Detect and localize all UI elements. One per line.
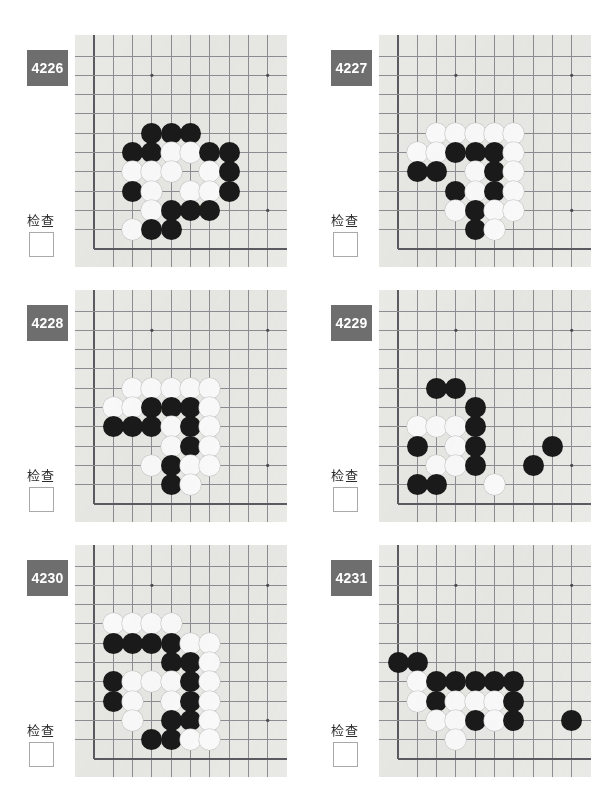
black-stone[interactable]: [407, 436, 428, 457]
white-stone[interactable]: [141, 378, 162, 399]
white-stone[interactable]: [122, 378, 143, 399]
black-stone[interactable]: [180, 200, 201, 221]
white-stone[interactable]: [180, 378, 201, 399]
black-stone[interactable]: [219, 181, 240, 202]
black-stone[interactable]: [542, 436, 563, 457]
black-stone[interactable]: [161, 710, 182, 731]
go-board[interactable]: [75, 290, 287, 522]
black-stone[interactable]: [465, 436, 486, 457]
black-stone[interactable]: [561, 710, 582, 731]
white-stone[interactable]: [103, 397, 124, 418]
black-stone[interactable]: [103, 416, 124, 437]
white-stone[interactable]: [426, 123, 447, 144]
black-stone[interactable]: [122, 142, 143, 163]
black-stone[interactable]: [219, 161, 240, 182]
black-stone[interactable]: [180, 123, 201, 144]
white-stone[interactable]: [199, 378, 220, 399]
black-stone[interactable]: [465, 671, 486, 692]
white-stone[interactable]: [161, 416, 182, 437]
white-stone[interactable]: [445, 123, 466, 144]
black-stone[interactable]: [503, 691, 524, 712]
white-stone[interactable]: [122, 691, 143, 712]
go-board[interactable]: [75, 35, 287, 267]
go-board[interactable]: [75, 545, 287, 777]
black-stone[interactable]: [465, 710, 486, 731]
white-stone[interactable]: [122, 397, 143, 418]
white-stone[interactable]: [484, 200, 505, 221]
black-stone[interactable]: [103, 691, 124, 712]
white-stone[interactable]: [122, 710, 143, 731]
white-stone[interactable]: [407, 691, 428, 712]
black-stone[interactable]: [484, 181, 505, 202]
black-stone[interactable]: [445, 181, 466, 202]
white-stone[interactable]: [161, 142, 182, 163]
black-stone[interactable]: [407, 161, 428, 182]
black-stone[interactable]: [523, 455, 544, 476]
black-stone[interactable]: [465, 397, 486, 418]
check-checkbox[interactable]: [29, 742, 54, 767]
black-stone[interactable]: [161, 455, 182, 476]
white-stone[interactable]: [465, 181, 486, 202]
check-checkbox[interactable]: [333, 487, 358, 512]
white-stone[interactable]: [484, 691, 505, 712]
go-board[interactable]: [379, 35, 591, 267]
white-stone[interactable]: [161, 671, 182, 692]
white-stone[interactable]: [465, 123, 486, 144]
black-stone[interactable]: [161, 633, 182, 654]
white-stone[interactable]: [445, 691, 466, 712]
white-stone[interactable]: [161, 378, 182, 399]
black-stone[interactable]: [122, 633, 143, 654]
go-board[interactable]: [379, 545, 591, 777]
check-checkbox[interactable]: [29, 487, 54, 512]
white-stone[interactable]: [407, 416, 428, 437]
black-stone[interactable]: [103, 633, 124, 654]
white-stone[interactable]: [503, 123, 524, 144]
white-stone[interactable]: [503, 181, 524, 202]
black-stone[interactable]: [161, 123, 182, 144]
black-stone[interactable]: [407, 474, 428, 495]
black-stone[interactable]: [161, 219, 182, 240]
black-stone[interactable]: [180, 652, 201, 673]
white-stone[interactable]: [465, 161, 486, 182]
black-stone[interactable]: [388, 652, 409, 673]
black-stone[interactable]: [426, 691, 447, 712]
black-stone[interactable]: [465, 200, 486, 221]
check-checkbox[interactable]: [333, 232, 358, 257]
white-stone[interactable]: [426, 455, 447, 476]
black-stone[interactable]: [407, 652, 428, 673]
black-stone[interactable]: [465, 142, 486, 163]
white-stone[interactable]: [484, 123, 505, 144]
black-stone[interactable]: [141, 633, 162, 654]
go-board[interactable]: [379, 290, 591, 522]
black-stone[interactable]: [161, 652, 182, 673]
black-stone[interactable]: [465, 219, 486, 240]
white-stone[interactable]: [180, 633, 201, 654]
black-stone[interactable]: [103, 671, 124, 692]
white-stone[interactable]: [199, 633, 220, 654]
check-checkbox[interactable]: [29, 232, 54, 257]
white-stone[interactable]: [141, 181, 162, 202]
white-stone[interactable]: [199, 436, 220, 457]
black-stone[interactable]: [180, 691, 201, 712]
white-stone[interactable]: [199, 181, 220, 202]
white-stone[interactable]: [161, 436, 182, 457]
white-stone[interactable]: [407, 671, 428, 692]
check-checkbox[interactable]: [333, 742, 358, 767]
black-stone[interactable]: [180, 436, 201, 457]
black-stone[interactable]: [426, 378, 447, 399]
white-stone[interactable]: [426, 142, 447, 163]
black-stone[interactable]: [161, 729, 182, 750]
white-stone[interactable]: [465, 691, 486, 712]
white-stone[interactable]: [426, 710, 447, 731]
black-stone[interactable]: [122, 181, 143, 202]
white-stone[interactable]: [407, 142, 428, 163]
white-stone[interactable]: [161, 613, 182, 634]
white-stone[interactable]: [180, 455, 201, 476]
black-stone[interactable]: [465, 455, 486, 476]
black-stone[interactable]: [445, 378, 466, 399]
white-stone[interactable]: [484, 710, 505, 731]
black-stone[interactable]: [465, 416, 486, 437]
black-stone[interactable]: [219, 142, 240, 163]
black-stone[interactable]: [161, 200, 182, 221]
white-stone[interactable]: [445, 436, 466, 457]
